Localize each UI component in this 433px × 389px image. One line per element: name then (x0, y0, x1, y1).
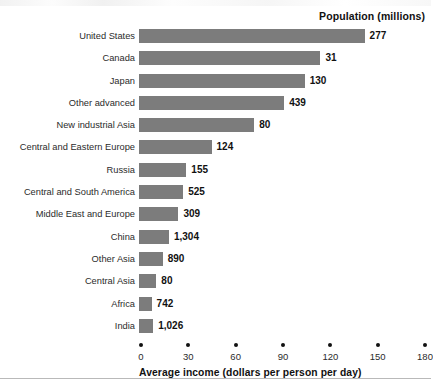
bar (139, 185, 183, 199)
chart-row: Middle East and Europe309 (0, 206, 431, 228)
chart-row: Japan130 (0, 73, 431, 95)
x-tick-marker (186, 343, 190, 347)
x-tick-marker (281, 343, 285, 347)
category-label: Central and Eastern Europe (0, 139, 135, 155)
category-label: Other Asia (0, 251, 135, 267)
bar (139, 96, 284, 110)
scan-artifact (0, 0, 431, 6)
category-label: India (0, 318, 135, 334)
x-tick-label: 120 (322, 351, 338, 363)
x-tick-marker (376, 343, 380, 347)
bar (139, 74, 305, 88)
x-tick-label: 180 (417, 351, 433, 363)
bar (139, 163, 186, 177)
x-tick-marker (328, 343, 332, 347)
chart-row: Central Asia80 (0, 273, 431, 295)
category-label: New industrial Asia (0, 117, 135, 133)
category-label: China (0, 229, 135, 245)
category-label: Central Asia (0, 273, 135, 289)
bar-value-label: 277 (370, 28, 387, 44)
x-axis-title: Average income (dollars per person per d… (139, 367, 362, 378)
bar (139, 118, 254, 132)
bar (139, 207, 178, 221)
category-label: Africa (0, 296, 135, 312)
series-header-label: Population (millions) (319, 10, 425, 22)
x-tick-label: 30 (183, 351, 194, 363)
bar-value-label: 155 (191, 162, 208, 178)
chart-row: Central and Eastern Europe124 (0, 139, 431, 161)
x-tick-label: 150 (370, 351, 386, 363)
bar (139, 51, 320, 65)
x-axis: Average income (dollars per person per d… (0, 343, 431, 389)
bar (139, 29, 365, 43)
category-label: Russia (0, 162, 135, 178)
bar (139, 274, 156, 288)
x-tick-label: 90 (278, 351, 289, 363)
bar (139, 230, 169, 244)
bar (139, 140, 212, 154)
category-label: Middle East and Europe (0, 206, 135, 222)
category-label: Canada (0, 50, 135, 66)
category-label: Other advanced (0, 95, 135, 111)
bar-value-label: 742 (157, 296, 174, 312)
chart-row: Other Asia890 (0, 251, 431, 273)
bar-value-label: 309 (183, 206, 200, 222)
bar (139, 252, 163, 266)
bar-value-label: 525 (188, 184, 205, 200)
chart-row: Other advanced439 (0, 95, 431, 117)
bar-value-label: 439 (289, 95, 306, 111)
bar-value-label: 1,304 (174, 229, 199, 245)
chart-row: Canada31 (0, 50, 431, 72)
chart-row: Russia155 (0, 162, 431, 184)
x-tick-label: 60 (230, 351, 241, 363)
footer-divider (0, 378, 431, 379)
bar-value-label: 80 (161, 273, 172, 289)
bar-value-label: 1,026 (158, 318, 183, 334)
bar-value-label: 31 (325, 50, 336, 66)
bar-value-label: 890 (168, 251, 185, 267)
bar (139, 297, 152, 311)
x-tick-marker (234, 343, 238, 347)
chart-row: India1,026 (0, 318, 431, 340)
chart-row: New industrial Asia80 (0, 117, 431, 139)
chart-row: United States277 (0, 28, 431, 50)
bar (139, 319, 153, 333)
chart-row: Africa742 (0, 296, 431, 318)
x-tick-marker (423, 343, 427, 347)
x-tick-marker (139, 343, 143, 347)
category-label: Japan (0, 73, 135, 89)
category-label: United States (0, 28, 135, 44)
bar-value-label: 130 (310, 73, 327, 89)
chart-row: Central and South America525 (0, 184, 431, 206)
category-label: Central and South America (0, 184, 135, 200)
chart-row: China1,304 (0, 229, 431, 251)
plot-area: United States277Canada31Japan130Other ad… (0, 28, 431, 340)
bar-value-label: 80 (259, 117, 270, 133)
bar-value-label: 124 (217, 139, 234, 155)
x-tick-label: 0 (138, 351, 143, 363)
